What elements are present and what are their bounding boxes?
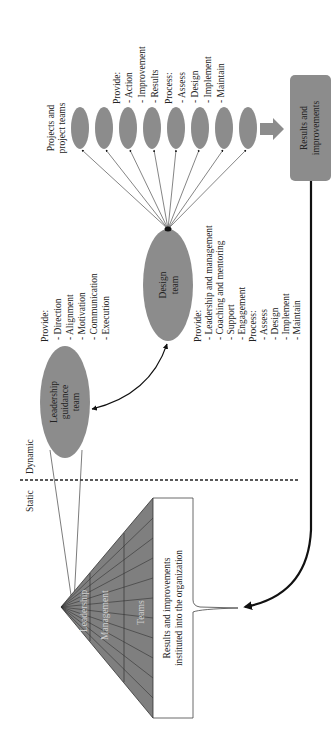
projects-list-item: Provide: [112, 72, 122, 104]
feedback-arrow [245, 181, 311, 607]
leadership-projection-line-right [74, 450, 82, 602]
project-team-ellipse [119, 107, 137, 149]
projects-label-2: project teams [57, 102, 67, 153]
design-list-item: - Leadership and management [204, 225, 214, 340]
design-list-item: - Support [226, 304, 236, 340]
leadership-provide-list: Provide: - Direction - Alignment - Motiv… [40, 273, 111, 342]
results-box: Results and improvements [290, 75, 331, 181]
projects-label-1: Projects and [46, 104, 56, 151]
leadership-provide-item: - Execution [101, 296, 111, 340]
leadership-projection-line-left [50, 450, 72, 602]
design-list-item: Process: [248, 310, 258, 342]
brace-text-line2: instituted into the organization [174, 550, 184, 666]
leadership-label-3: team [71, 392, 81, 411]
design-list-item: - Assess [259, 309, 269, 340]
leadership-provide-heading: Provide: [40, 310, 50, 342]
results-label-1: Results and [299, 106, 309, 150]
leadership-label-2: guidance [60, 385, 70, 419]
design-team-list: Provide: - Leadership and management - C… [193, 225, 302, 342]
design-list-item: - Coaching and mentoring [215, 240, 225, 340]
project-team-ellipses [71, 107, 257, 149]
projects-list-item: - Improvement [137, 46, 147, 103]
project-team-ellipse [191, 107, 209, 149]
projects-list-item: - Action [124, 72, 134, 103]
projects-list-item: Process: [164, 72, 174, 104]
projects-list: Provide: - Action - Improvement - Result… [112, 46, 226, 104]
organizational-change-diagram: Dynamic Static Leadership Management Tea… [0, 0, 336, 748]
pyramid-level-teams: Teams [136, 600, 146, 625]
projects-list-item: - Results [150, 69, 160, 103]
leadership-design-connector [92, 344, 167, 409]
project-team-ellipse [71, 107, 89, 149]
leadership-provide-item: - Motivation [77, 292, 87, 340]
design-to-projects-arrows [82, 150, 246, 229]
design-list-item: Provide: [193, 310, 203, 342]
pyramid-level-management: Management [100, 590, 110, 640]
results-label-2: improvements [311, 101, 321, 156]
leadership-label-1: Leadership [49, 381, 59, 423]
leadership-guidance-team: Leadership guidance team [40, 346, 90, 458]
leadership-provide-item: - Direction [53, 298, 63, 340]
organization-pyramid: Leadership Management Teams [61, 498, 153, 718]
projects-list-item: - Maintain [216, 63, 226, 103]
block-arrow-icon [260, 118, 284, 140]
project-team-ellipse [95, 107, 113, 149]
design-list-item: - Design [270, 307, 280, 340]
leadership-provide-item: - Communication [89, 273, 99, 340]
projects-list-item: - Implement [203, 56, 213, 103]
static-label: Static [25, 490, 35, 512]
design-label-2: team [170, 275, 180, 294]
project-team-ellipse [167, 107, 185, 149]
leadership-provide-item: - Alignment [65, 294, 75, 340]
design-label-1: Design [158, 271, 168, 298]
dynamic-label: Dynamic [25, 439, 35, 474]
design-list-item: - Engagement [237, 287, 247, 340]
projects-list-item: - Assess [177, 72, 187, 103]
design-list-item: - Implement [281, 293, 291, 340]
pyramid-level-leadership: Leadership [79, 590, 89, 632]
design-team: Design team [143, 229, 193, 341]
fan-hub-dot [165, 227, 172, 232]
projects-list-item: - Design [190, 70, 200, 103]
project-team-ellipse [143, 107, 161, 149]
design-list-item: - Maintain [292, 300, 302, 340]
project-team-ellipse [239, 107, 257, 149]
project-team-ellipse [215, 107, 233, 149]
brace-text-line1: Results and improvements [162, 557, 172, 658]
